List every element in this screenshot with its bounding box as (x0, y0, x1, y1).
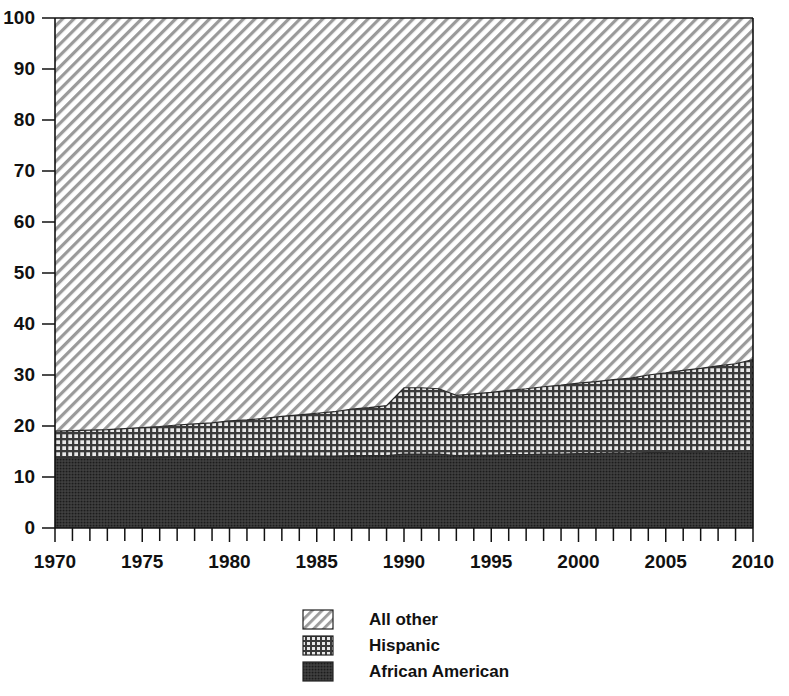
y-tick-label: 50 (14, 262, 35, 283)
legend-label: Hispanic (369, 636, 440, 655)
x-axis: 197019751980198519901995200020052010 (34, 528, 774, 572)
x-tick-label: 2005 (645, 551, 688, 572)
legend-swatch-cross-grid (303, 636, 333, 655)
x-tick-label: 1985 (296, 551, 339, 572)
y-tick-label: 30 (14, 364, 35, 385)
x-tick-label: 1975 (121, 551, 164, 572)
y-tick-label: 60 (14, 211, 35, 232)
x-tick-label: 1990 (383, 551, 425, 572)
chart-legend: All otherHispanicAfrican American (303, 610, 509, 681)
y-tick-label: 10 (14, 466, 35, 487)
legend-swatch-diagonal-hatch (303, 610, 333, 629)
y-tick-label: 100 (3, 7, 35, 28)
x-tick-label: 2010 (732, 551, 774, 572)
legend-swatch-dense-dark (303, 662, 333, 681)
x-tick-label: 1970 (34, 551, 76, 572)
chart-container: 0102030405060708090100 19701975198019851… (0, 0, 789, 696)
legend-label: African American (369, 662, 509, 681)
y-tick-label: 20 (14, 415, 35, 436)
legend-item: All other (303, 610, 438, 629)
legend-item: Hispanic (303, 636, 440, 655)
area-series-african-american (55, 451, 753, 528)
y-tick-label: 70 (14, 160, 35, 181)
plot-area (55, 18, 753, 528)
x-tick-label: 1995 (470, 551, 513, 572)
y-tick-label: 80 (14, 109, 35, 130)
legend-item: African American (303, 662, 509, 681)
area-series-all-other (55, 18, 753, 431)
y-tick-label: 90 (14, 58, 35, 79)
y-tick-label: 40 (14, 313, 35, 334)
y-tick-label: 0 (24, 517, 35, 538)
legend-label: All other (369, 610, 438, 629)
x-tick-label: 1980 (208, 551, 250, 572)
stacked-area-chart: 0102030405060708090100 19701975198019851… (0, 0, 789, 696)
y-axis: 0102030405060708090100 (3, 7, 55, 538)
x-tick-label: 2000 (557, 551, 599, 572)
